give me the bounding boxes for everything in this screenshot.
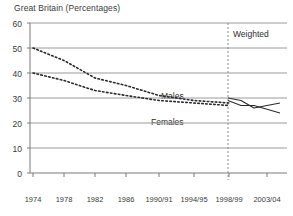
- chart-container: Great Britain (Percentages) 60 50 40 30 …: [0, 0, 293, 216]
- gridlines: [30, 23, 287, 148]
- series-line-males-unweighted: [33, 48, 229, 103]
- chart-plot-area: [0, 0, 293, 216]
- series-line-females-weighted: [228, 101, 280, 114]
- chart-axes: [27, 23, 287, 177]
